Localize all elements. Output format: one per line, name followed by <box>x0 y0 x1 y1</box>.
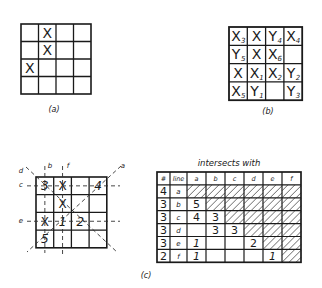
grid-cell-subscript: 5 <box>241 55 246 63</box>
table-header-cell: line <box>173 175 185 183</box>
hatch-stroke <box>263 237 269 243</box>
table-cell-value: 3 <box>231 224 238 237</box>
line-label-e: e <box>19 217 23 225</box>
hatched-cell <box>282 185 301 198</box>
grid-mark-x: X <box>42 42 52 58</box>
table-row-line-label: c <box>177 214 181 222</box>
grid-panel-a: XXX <box>21 24 91 94</box>
hatch-stroke <box>194 186 206 198</box>
hatch-stroke <box>244 185 250 191</box>
hatch-stroke <box>258 232 263 237</box>
grid-mark-x: X <box>42 25 52 41</box>
hatched-cell <box>263 198 282 211</box>
table-row-count: 3 <box>160 211 167 224</box>
hatch-stroke <box>263 185 269 191</box>
grid-cell-letter: X <box>231 28 241 44</box>
table-row-count: 3 <box>160 198 167 211</box>
hatch-stroke <box>220 193 225 198</box>
table-title: intersects with <box>198 158 261 168</box>
hatch-stroke <box>206 185 219 198</box>
grid-cell-subscript: 6 <box>278 55 283 63</box>
hatch-stroke <box>263 198 269 204</box>
hatch-stroke <box>282 198 288 204</box>
hatch-stroke <box>282 198 295 211</box>
hatch-stroke <box>289 225 301 237</box>
hatch-stroke <box>244 224 250 230</box>
figure-canvas: XXX(a)X3XY4X4Y5XX6XX1X2Y2X5Y1Y3(b)3X4XX1… <box>0 0 322 288</box>
caption-c: (c) <box>141 271 152 280</box>
hatch-stroke <box>263 185 276 198</box>
table-row-line-label: e <box>176 240 180 248</box>
table-row-count: 2 <box>160 250 167 263</box>
hatched-cell <box>263 211 282 224</box>
line-label-a: a <box>121 162 125 170</box>
hatched-cell <box>263 185 282 198</box>
hatch-stroke <box>244 198 257 211</box>
hatch-stroke <box>277 232 282 237</box>
table-cell-value: 2 <box>250 237 257 250</box>
hatch-stroke <box>187 185 193 191</box>
hatched-cell <box>263 237 282 250</box>
hatch-stroke <box>258 193 263 198</box>
hatched-cell <box>282 249 301 262</box>
hatch-stroke <box>263 224 276 237</box>
hatched-cell <box>244 185 263 198</box>
hatch-stroke <box>282 185 288 191</box>
grid-panel-c: 3X4XX125 <box>36 177 107 248</box>
hatched-cell <box>282 237 301 250</box>
table-cell-value: 5 <box>193 198 200 211</box>
hatch-stroke <box>187 185 200 198</box>
hatch-stroke <box>263 211 269 217</box>
hatch-stroke <box>270 186 282 198</box>
table-row-count: 3 <box>160 224 167 237</box>
hatched-cell <box>244 224 263 237</box>
grid-cell-letter: X <box>252 46 262 62</box>
grid-panel-b: X3XY4X4Y5XX6XX1X2Y2X5Y1Y3 <box>229 27 302 100</box>
hatch-stroke <box>225 211 238 224</box>
grid-cell-letter: Y <box>286 83 296 99</box>
table-cell-value: 4 <box>193 211 200 224</box>
hatch-stroke <box>289 237 301 249</box>
hatch-stroke <box>263 198 276 211</box>
line-label-b: b <box>48 162 53 170</box>
hatch-stroke <box>244 224 257 237</box>
hatch-stroke <box>289 186 301 198</box>
hatch-stroke <box>251 186 263 198</box>
table-header-cell: c <box>233 175 237 183</box>
hatched-cell <box>225 211 244 224</box>
hatch-stroke <box>206 198 219 211</box>
hatch-stroke <box>232 199 244 211</box>
table-header-cell: e <box>271 175 275 183</box>
hatch-stroke <box>225 198 231 204</box>
table-header-cell: a <box>195 175 199 183</box>
grid-cell-subscript: 3 <box>296 92 300 100</box>
hatch-stroke <box>282 224 295 237</box>
grid-cell-letter: Y <box>267 28 277 44</box>
grid-cell-letter: X <box>250 65 260 81</box>
hatched-cell <box>225 198 244 211</box>
grid-cell-letter: X <box>268 65 278 81</box>
hatch-stroke <box>270 237 282 249</box>
hatch-stroke <box>244 211 250 217</box>
hatch-stroke <box>251 225 263 237</box>
intersection-table: intersects with#lineabcdef4a3b53c433d333… <box>157 158 301 263</box>
table-cell-value: 1 <box>193 250 200 263</box>
hatch-stroke <box>232 186 244 198</box>
grid-cell-letter: Y <box>249 83 259 99</box>
table-cell-value: 1 <box>269 250 276 263</box>
grid-cell-letter: X <box>231 83 241 99</box>
hatch-stroke <box>282 185 295 198</box>
hatch-stroke <box>258 206 263 211</box>
hatch-stroke <box>206 185 212 191</box>
hatch-stroke <box>270 225 282 237</box>
hatch-stroke <box>270 199 282 211</box>
hatch-stroke <box>213 199 225 211</box>
grid-cell-subscript: 4 <box>296 37 300 45</box>
hatch-stroke <box>263 237 276 250</box>
table-cell-value: 1 <box>193 237 200 250</box>
grid-cell-subscript: 2 <box>278 74 283 82</box>
hatched-cell <box>225 185 244 198</box>
hatched-cell <box>282 198 301 211</box>
table-header-cell: d <box>251 175 256 183</box>
grid-cell-value: 2 <box>76 215 84 229</box>
